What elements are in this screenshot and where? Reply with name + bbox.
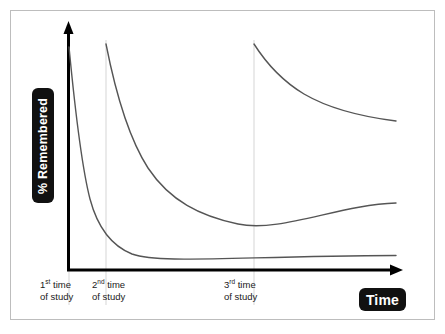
tick-2-rest: time [105, 279, 126, 290]
figure-container: % Remembered Time 1st time of study 2nd … [0, 0, 445, 334]
y-axis-label-text: % Remembered [36, 97, 50, 193]
x-tick-label-study-2: 2nd time of study [92, 279, 125, 302]
tick-3-line2: of study [224, 291, 257, 302]
curve-after-second-study [106, 44, 396, 226]
curve-after-third-study [254, 44, 396, 121]
tick-3-rest: time [235, 279, 256, 290]
x-axis-label-text: Time [366, 292, 399, 308]
x-tick-label-study-3: 3rd time of study [224, 279, 257, 302]
curve-after-first-study [69, 47, 396, 259]
y-axis-label-badge: % Remembered [32, 88, 54, 203]
y-axis-arrowhead [64, 21, 74, 34]
tick-1-rest: time [50, 279, 71, 290]
curve-group [69, 44, 396, 259]
guide-lines [69, 40, 254, 305]
x-axis-label-badge: Time [359, 288, 406, 311]
x-tick-label-study-1: 1st time of study [40, 279, 73, 302]
tick-1-line2: of study [40, 291, 73, 302]
tick-2-line2: of study [92, 291, 125, 302]
x-axis-arrowhead [390, 265, 403, 276]
axes-lines [64, 21, 404, 276]
tick-2-suffix: nd [97, 278, 104, 285]
